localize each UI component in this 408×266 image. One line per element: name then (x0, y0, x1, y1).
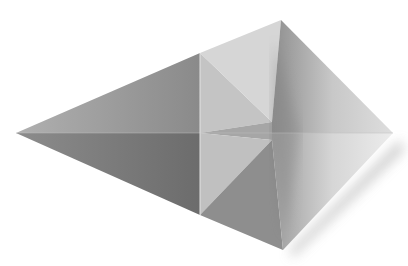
left-upper-facet (16, 53, 200, 133)
left-lower-facet (16, 133, 200, 215)
origami-photo (0, 0, 408, 266)
